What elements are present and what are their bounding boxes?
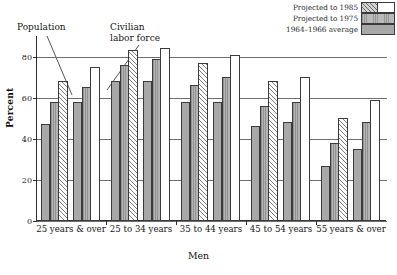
ytick-mark-0 xyxy=(33,221,37,222)
y-axis-title: Percent xyxy=(5,88,15,128)
x-axis-tick xyxy=(176,221,177,225)
x-axis-title: Men xyxy=(0,250,397,261)
ytick-label-40: 40 xyxy=(22,134,32,143)
chart-container: Projected to 1985 Projected to 1975 1964… xyxy=(0,0,397,275)
x-axis-tick xyxy=(316,221,317,225)
bar-35-to-44-years-labor-force-projected-to-1985 xyxy=(230,55,239,222)
bars-layer xyxy=(36,36,386,221)
x-axis-tick xyxy=(106,221,107,225)
ytick-label-20: 20 xyxy=(22,175,32,184)
bar-45-to-54-years-labor-force-projected-to-1985 xyxy=(300,77,309,221)
ytick-label-60: 60 xyxy=(22,93,32,102)
bar-55-years-over-labor-force-projected-to-1985 xyxy=(370,100,379,221)
bar-35-to-44-years-population-projected-to-1985 xyxy=(198,63,207,221)
x-axis-label-55-years-over: 55 years & over xyxy=(310,224,392,234)
bar-25-to-34-years-labor-force-projected-to-1985 xyxy=(160,48,169,221)
bar-25-years-over-population-projected-to-1985 xyxy=(58,81,67,221)
bar-25-years-over-labor-force-projected-to-1985 xyxy=(90,67,99,221)
ytick-label-80: 80 xyxy=(22,52,32,61)
bar-45-to-54-years-population-projected-to-1985 xyxy=(268,81,277,221)
bar-55-years-over-population-projected-to-1985 xyxy=(338,118,347,221)
bar-25-to-34-years-population-projected-to-1985 xyxy=(128,50,137,221)
gridline-0 xyxy=(37,221,387,222)
x-axis-tick xyxy=(246,221,247,225)
